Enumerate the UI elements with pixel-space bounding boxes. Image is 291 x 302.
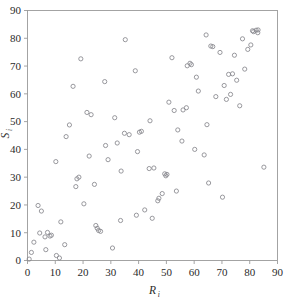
x-tick-label: 10 <box>50 266 62 278</box>
y-tick-label: 10 <box>10 227 22 239</box>
x-tick-label: 0 <box>25 266 31 278</box>
x-tick-label: 90 <box>272 266 284 278</box>
x-tick-label: 50 <box>161 266 173 278</box>
x-tick-label: 80 <box>244 266 256 278</box>
y-axis-title-subscript: i <box>5 129 14 131</box>
x-tick-label: 70 <box>216 266 228 278</box>
x-tick-label: 30 <box>105 266 117 278</box>
y-tick-label: 30 <box>10 171 22 183</box>
y-tick-label: 40 <box>10 143 22 155</box>
x-axis-title-text: R <box>148 284 156 296</box>
x-tick-label: 40 <box>133 266 145 278</box>
plot-background <box>0 0 291 302</box>
y-tick-label: 70 <box>10 60 22 72</box>
scatter-plot-figure: 0102030405060708090 0102030405060708090 … <box>0 0 291 302</box>
x-axis-title-subscript: i <box>158 290 160 299</box>
y-tick-label: 80 <box>10 32 22 44</box>
scatter-plot-svg: 0102030405060708090 0102030405060708090 … <box>0 0 291 302</box>
y-tick-label: 50 <box>10 115 22 127</box>
y-axis-title-text: S <box>0 132 11 138</box>
x-tick-label: 60 <box>189 266 201 278</box>
y-tick-label: 0 <box>16 254 22 266</box>
y-tick-label: 20 <box>10 199 22 211</box>
y-tick-label: 90 <box>10 4 22 16</box>
x-tick-label: 20 <box>78 266 90 278</box>
y-tick-label: 60 <box>10 88 22 100</box>
